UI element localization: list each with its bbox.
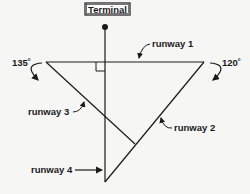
runway-4-label: runway 4 bbox=[31, 164, 73, 175]
runway-2-label: runway 2 bbox=[174, 122, 215, 133]
runway-3-label: runway 3 bbox=[28, 106, 69, 117]
terminal: Terminal bbox=[85, 3, 130, 15]
runway-2-arrow-icon bbox=[161, 118, 172, 128]
angle-135-label: 135˚ bbox=[12, 57, 31, 68]
runway-3-arrow-icon bbox=[73, 102, 84, 112]
terminal-label: Terminal bbox=[88, 4, 127, 15]
runway-1-arrow-icon bbox=[139, 44, 150, 58]
runway-3-line bbox=[46, 62, 135, 144]
runway-1-label: runway 1 bbox=[152, 38, 194, 49]
angle-120-label: 120˚ bbox=[222, 57, 241, 68]
angle-135-arrow-icon bbox=[31, 63, 42, 80]
right-angle-icon bbox=[96, 62, 105, 71]
angle-120-arrow-icon bbox=[210, 63, 221, 80]
airport-runway-diagram: Terminal runway 1 runway 3 runway 2 runw… bbox=[0, 0, 250, 194]
